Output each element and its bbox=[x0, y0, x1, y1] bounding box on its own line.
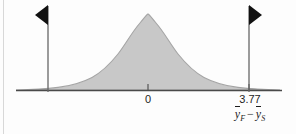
minus-operator: − bbox=[245, 107, 256, 121]
overbar-first bbox=[235, 106, 240, 107]
right-flag-triangle-icon bbox=[249, 5, 262, 25]
normal-curve-area bbox=[16, 14, 280, 90]
y-symbol-first: y bbox=[235, 107, 240, 121]
x-tick-label-zero: 0 bbox=[128, 93, 168, 105]
x-tick-label-critical: 3.77 bbox=[225, 93, 275, 105]
x-axis-statistic-label: yF−yS bbox=[219, 107, 281, 126]
left-flag-triangle-icon bbox=[35, 5, 48, 25]
overbar-second bbox=[256, 106, 261, 107]
y-bar-first: y bbox=[235, 107, 240, 121]
y-symbol-second: y bbox=[256, 107, 261, 121]
y-bar-second: y bbox=[256, 107, 261, 121]
normal-distribution-figure: 0 3.77 yF−yS bbox=[0, 0, 296, 134]
subscript-second: S bbox=[261, 114, 265, 123]
